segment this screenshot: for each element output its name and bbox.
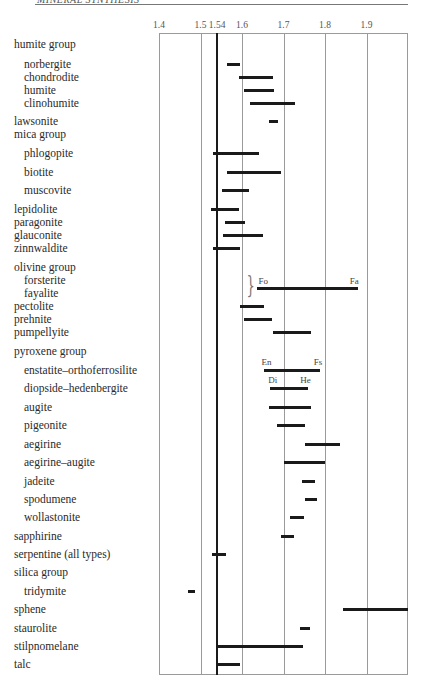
mineral-label: pumpellyite (14, 326, 69, 338)
mineral-label: forsterite (24, 274, 66, 286)
range-bar (217, 663, 240, 666)
mineral-label: enstatite–orthoferrosilite (24, 364, 137, 376)
gridline (325, 33, 326, 675)
mineral-label: humite (24, 84, 56, 96)
mineral-label: serpentine (all types) (14, 548, 110, 560)
range-bar (273, 331, 311, 334)
mineral-label: prehnite (14, 313, 52, 325)
range-start-label: En (262, 358, 272, 367)
reference-line (216, 33, 218, 675)
mineral-label: lepidolite (14, 203, 57, 215)
mineral-label: diopside–hedenbergite (24, 382, 128, 394)
range-bar (212, 553, 226, 556)
mineral-label: talc (14, 658, 31, 670)
range-bar (269, 406, 311, 409)
range-bar (270, 387, 308, 390)
range-bar (217, 645, 303, 648)
mineral-label: aegirine–augite (24, 456, 95, 468)
group-label: pyroxene group (14, 345, 87, 357)
x-tick-label: 1.54 (209, 20, 226, 30)
x-tick-label: 1.8 (319, 20, 331, 30)
range-bar (281, 535, 294, 538)
range-end-label: He (300, 376, 311, 385)
x-tick-label: 1.6 (236, 20, 248, 30)
range-bar (213, 152, 259, 155)
mineral-label: chondrodite (24, 71, 79, 83)
gridline (284, 33, 285, 675)
mineral-label: norbergite (24, 58, 71, 70)
range-start-label: Fo (259, 277, 269, 286)
mineral-label: muscovite (24, 184, 71, 196)
x-tick-label: 1.4 (153, 20, 165, 30)
group-label: mica group (14, 128, 66, 140)
gridline (242, 33, 243, 675)
mineral-label: pectolite (14, 300, 54, 312)
x-tick-label: 1.5 (195, 20, 207, 30)
mineral-label: tridymite (24, 585, 66, 597)
header-rule (35, 4, 408, 5)
range-bar (300, 627, 310, 630)
mineral-label: wollastonite (24, 511, 80, 523)
mineral-label: jadeite (24, 475, 55, 487)
brace-icon: } (247, 273, 255, 297)
range-bar (244, 318, 271, 321)
x-tick-label: 1.7 (278, 20, 290, 30)
mineral-label: paragonite (14, 216, 63, 228)
mineral-label: sapphirine (14, 530, 62, 542)
range-end-label: Fa (350, 277, 359, 286)
group-label: silica group (14, 566, 68, 578)
range-end-label: Fs (314, 358, 323, 367)
mineral-label: pigeonite (24, 419, 67, 431)
range-bar (302, 480, 315, 483)
range-bar (240, 305, 264, 308)
range-bar (277, 424, 305, 427)
range-bar (239, 76, 273, 79)
range-bar (227, 171, 281, 174)
mineral-label: zinnwaldite (14, 242, 68, 254)
range-bar (222, 189, 249, 192)
mineral-label: aegirine (24, 438, 61, 450)
mineral-label: staurolite (14, 622, 57, 634)
range-bar (225, 221, 245, 224)
olivine-range-bar (257, 287, 358, 290)
range-bar (244, 89, 274, 92)
mineral-label: augite (24, 401, 52, 413)
mineral-label: spodumene (24, 493, 76, 505)
mineral-label: phlogopite (24, 147, 73, 159)
range-bar (284, 461, 326, 464)
range-bar (213, 247, 240, 250)
range-bar (269, 120, 278, 123)
range-bar (305, 443, 340, 446)
mineral-label: stilpnomelane (14, 640, 79, 652)
range-bar (211, 208, 239, 211)
range-bar (305, 498, 317, 501)
group-label: humite group (14, 38, 76, 50)
range-bar (264, 369, 320, 372)
gridline (367, 33, 368, 675)
mineral-label: lawsonite (14, 115, 58, 127)
mineral-label: glauconite (14, 229, 62, 241)
mineral-label: clinohumite (24, 97, 79, 109)
x-tick-label: 1.9 (361, 20, 373, 30)
range-bar (188, 590, 195, 593)
range-start-label: Di (268, 376, 277, 385)
range-bar (227, 63, 240, 66)
range-bar (250, 102, 295, 105)
range-bar (223, 234, 262, 237)
mineral-label: biotite (24, 166, 53, 178)
mineral-label: fayalite (24, 287, 58, 299)
range-bar (290, 516, 304, 519)
range-bar (343, 608, 408, 611)
gridline (201, 33, 202, 675)
group-label: olivine group (14, 261, 76, 273)
mineral-label: sphene (14, 603, 46, 615)
